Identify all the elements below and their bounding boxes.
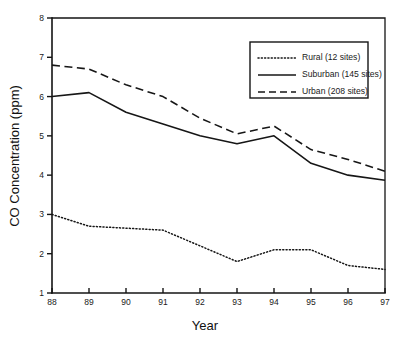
x-tick-label: 88 [47, 297, 57, 307]
x-tick-label: 95 [306, 297, 316, 307]
x-tick-label: 97 [380, 297, 390, 307]
x-tick-label: 89 [84, 297, 94, 307]
x-axis-title: Year [192, 318, 219, 333]
series-line-dotted [52, 214, 385, 269]
legend-label: Suburban (145 sites) [302, 69, 382, 79]
x-tick-label: 92 [195, 297, 205, 307]
x-tick-label: 93 [232, 297, 242, 307]
x-tick-label: 96 [343, 297, 353, 307]
legend-label: Urban (208 sites) [302, 86, 368, 96]
y-axis-ticks: 12345678 [39, 13, 52, 298]
y-tick-label: 1 [39, 288, 44, 298]
legend-label: Rural (12 sites) [302, 52, 360, 62]
y-axis-title: CO Concentration (ppm) [7, 85, 22, 227]
y-tick-label: 5 [39, 131, 44, 141]
y-tick-label: 8 [39, 13, 44, 23]
chart-figure: 12345678 88899091929394959697 Rural (12 … [0, 0, 409, 337]
series-line-solid [52, 93, 385, 181]
x-tick-label: 91 [158, 297, 168, 307]
legend: Rural (12 sites)Suburban (145 sites)Urba… [250, 42, 382, 98]
y-tick-label: 4 [39, 170, 44, 180]
y-tick-label: 6 [39, 92, 44, 102]
x-tick-label: 90 [121, 297, 131, 307]
y-tick-label: 3 [39, 209, 44, 219]
y-tick-label: 2 [39, 249, 44, 259]
x-axis-ticks: 88899091929394959697 [47, 288, 390, 307]
co-concentration-line-chart: 12345678 88899091929394959697 Rural (12 … [0, 0, 409, 337]
y-tick-label: 7 [39, 52, 44, 62]
x-tick-label: 94 [269, 297, 279, 307]
